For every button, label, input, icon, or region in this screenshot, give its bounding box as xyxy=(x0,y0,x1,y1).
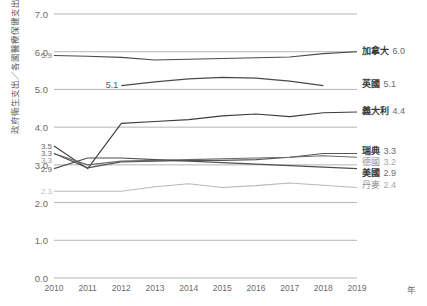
legend-item-加拿大: 加拿大6.0 xyxy=(362,43,405,56)
legend-item-英國: 英國5.1 xyxy=(362,76,396,89)
x-tick-label: 2015 xyxy=(213,283,232,293)
legend-value: 2.9 xyxy=(383,167,396,177)
x-tick-label: 2012 xyxy=(112,283,131,293)
x-tick-label: 2017 xyxy=(280,283,299,293)
x-tick-label: 2011 xyxy=(79,283,97,293)
legend-value: 5.1 xyxy=(383,78,396,88)
x-tick-label: 2013 xyxy=(146,283,165,293)
series-line-英國 xyxy=(121,77,323,85)
start-value-label: 5.9 xyxy=(41,51,52,60)
legend-label: 英國 xyxy=(362,78,380,88)
legend-label: 義大利 xyxy=(362,106,390,116)
start-value-label: 2.3 xyxy=(41,187,52,196)
legend-item-義大利: 義大利4.4 xyxy=(362,104,405,117)
x-tick-label: 2019 xyxy=(348,283,367,293)
legend-value: 2.4 xyxy=(383,179,396,189)
legend-label: 美國 xyxy=(362,167,380,177)
line-chart: 政府衛生支出／各國醫療保健支出（%） 0.01.02.03.04.05.06.0… xyxy=(0,0,427,306)
start-value-label: 2.9 xyxy=(41,164,52,173)
series-line-瑞典 xyxy=(54,154,357,168)
uk-start-value-label: 5.1 xyxy=(106,80,119,90)
x-tick-label: 2010 xyxy=(45,283,64,293)
legend-value: 6.0 xyxy=(393,45,406,55)
start-value-label: 3.3 xyxy=(41,155,52,164)
legend-label: 丹麥 xyxy=(362,179,380,189)
x-axis-unit-label: 年 xyxy=(407,283,416,295)
x-tick-label: 2014 xyxy=(179,283,198,293)
legend-value: 4.4 xyxy=(393,106,406,116)
x-tick-label: 2016 xyxy=(247,283,266,293)
series-line-加拿大 xyxy=(54,52,357,60)
legend-label: 加拿大 xyxy=(362,45,390,55)
legend-item-丹麥: 丹麥2.4 xyxy=(362,177,396,190)
x-tick-label: 2018 xyxy=(314,283,333,293)
series-line-丹麥 xyxy=(54,183,357,191)
